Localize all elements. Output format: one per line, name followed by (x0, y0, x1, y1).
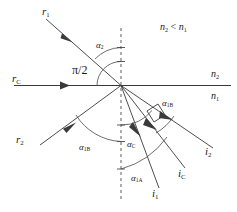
label-ray-iC: iC (178, 168, 186, 181)
label-ray-r2: r2 (16, 134, 24, 147)
ray-iC-arrowhead (143, 118, 157, 130)
label-medium-n1: n1 (211, 91, 219, 102)
optics-refraction-diagram: r1 rC r2 i2 iC i1 α2 π/2 α1B αC α1A α1B … (0, 0, 237, 212)
label-ray-i2: i2 (205, 146, 211, 159)
label-angle-alpha1B-left: α1B (79, 143, 90, 153)
ray-rC-arrowhead (60, 82, 70, 90)
label-ray-i1: i1 (152, 188, 158, 201)
arc-alpha1B-left (76, 115, 121, 142)
ray-i1 (121, 86, 159, 189)
diagram-canvas (0, 0, 237, 212)
ray-r2-arrowhead (63, 123, 76, 134)
label-ray-rC: rC (12, 73, 21, 86)
label-angle-alphaC: αC (127, 140, 135, 150)
label-angle-pi-over-2: π/2 (72, 64, 87, 76)
label-angle-alpha2: α2 (96, 41, 104, 51)
label-ray-r1: r1 (42, 6, 50, 19)
label-media-relation: n2 < n1 (160, 22, 187, 33)
label-angle-alpha1A: α1A (131, 174, 143, 184)
ray-r2 (40, 86, 121, 146)
ray-r1-arrowhead (61, 34, 73, 43)
label-angle-alpha1B-right: α1B (162, 99, 173, 109)
label-medium-n2: n2 (211, 69, 219, 80)
ray-i2-arrowhead (159, 111, 173, 120)
